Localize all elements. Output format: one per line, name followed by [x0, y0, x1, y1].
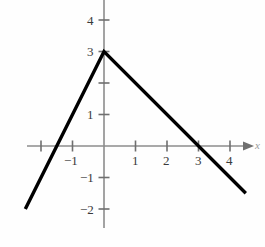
curve-piecewise-absolute-value	[25, 52, 246, 210]
chart-figure: −1 1 2 3 4 4 3 1 −1 −2 x	[0, 0, 265, 247]
y-tick-label-4: 4	[87, 14, 94, 27]
y-tick-label--1: −1	[80, 171, 94, 184]
x-axis-label: x	[255, 140, 260, 151]
y-tick-label-1: 1	[87, 108, 94, 121]
y-tick-label--2: −2	[80, 203, 94, 216]
y-tick-label-3: 3	[87, 45, 94, 58]
x-tick-label-2: 2	[163, 154, 170, 167]
x-tick-label-4: 4	[226, 154, 233, 167]
x-tick-label-1: 1	[132, 154, 139, 167]
x-tick-label-3: 3	[195, 154, 202, 167]
x-axis-arrowhead	[243, 142, 254, 151]
x-tick-label--1: −1	[64, 154, 78, 167]
plot-area	[0, 0, 265, 247]
